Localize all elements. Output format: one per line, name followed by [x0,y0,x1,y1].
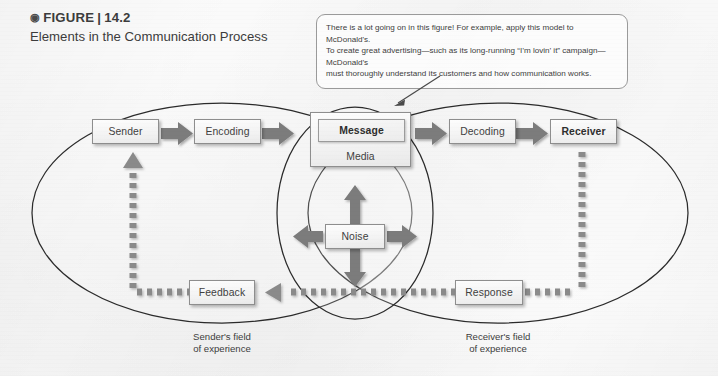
node-noise-label: Noise [341,231,368,242]
arrow-noise-down [344,248,366,287]
arrow-encoding-to-message [262,122,294,145]
receiver-field-label-line1: Receiver's field [428,331,568,343]
node-media[interactable]: Message Media [310,112,411,167]
arrow-decoding-to-receiver [516,122,548,145]
communication-process-diagram: Sender Encoding Message Media Decoding R… [0,0,718,376]
arrow-noise-right [387,225,417,248]
node-sender[interactable]: Sender [92,119,159,144]
node-media-label: Media [311,151,410,162]
arrow-noise-left [293,225,323,248]
sender-field-label-line1: Sender's field [152,331,292,343]
receiver-field-label: Receiver's field of experience [428,331,568,356]
node-message-label: Message [339,125,384,136]
receiver-field-label-line2: of experience [428,343,568,355]
node-response-label: Response [465,287,513,298]
sender-field-label: Sender's field of experience [152,331,292,356]
arrowhead-into-feedback [265,283,281,302]
arrow-message-to-decoding [415,122,447,145]
arrow-noise-up-to-media [344,185,366,225]
node-message[interactable]: Message [318,119,405,142]
node-encoding-label: Encoding [205,126,249,137]
node-sender-label: Sender [108,126,142,137]
node-decoding[interactable]: Decoding [449,119,516,144]
node-feedback-label: Feedback [199,287,245,298]
node-noise[interactable]: Noise [325,224,385,249]
node-decoding-label: Decoding [460,126,505,137]
sender-field-label-line2: of experience [152,343,292,355]
node-receiver-label: Receiver [561,126,605,137]
node-feedback[interactable]: Feedback [189,280,255,305]
node-receiver[interactable]: Receiver [550,119,617,144]
node-encoding[interactable]: Encoding [194,119,261,144]
arrowhead-into-sender [123,152,143,168]
node-response[interactable]: Response [455,280,523,305]
arrow-sender-to-encoding [161,122,193,145]
process-flow-arrows [0,0,718,376]
